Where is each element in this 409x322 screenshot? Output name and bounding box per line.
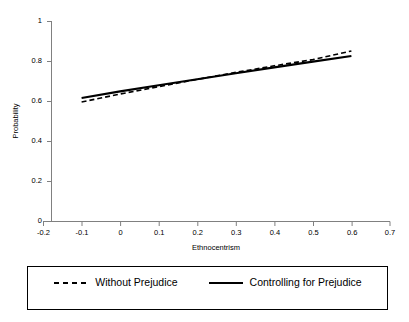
x-axis-ticks (44, 222, 391, 227)
plot-svg (0, 0, 409, 262)
chart-figure: 0 0.2 0.4 0.6 0.8 1 -0.2 -0.1 0 0.1 0.2 … (0, 0, 409, 322)
y-tick-label-1: 1 (24, 17, 42, 25)
plot-area: 0 0.2 0.4 0.6 0.8 1 -0.2 -0.1 0 0.1 0.2 … (0, 0, 409, 262)
legend-label-without-prejudice: Without Prejudice (95, 276, 177, 288)
y-tick-label-0_8: 0.8 (24, 57, 42, 65)
x-tick-label-0_1: 0.1 (154, 229, 164, 237)
x-tick-label-neg0_2: -0.2 (37, 229, 50, 237)
legend-label-controlling-for-prejudice: Controlling for Prejudice (250, 276, 362, 288)
x-tick-label-neg0_1: -0.1 (76, 229, 89, 237)
x-tick-label-0_7: 0.7 (385, 229, 395, 237)
y-tick-label-0_2: 0.2 (24, 177, 42, 185)
x-tick-label-0_3: 0.3 (231, 229, 241, 237)
x-tick-label-0_4: 0.4 (270, 229, 280, 237)
legend-entry-controlling-for-prejudice: Controlling for Prejudice (208, 276, 362, 288)
legend-swatch-dashed-icon (53, 281, 89, 284)
y-axis-ticks (47, 22, 52, 222)
series-line-controlling-for-prejudice (82, 56, 352, 98)
x-tick-label-0: 0 (119, 229, 123, 237)
x-axis-title: Ethnocentrism (192, 243, 240, 252)
y-tick-label-0: 0 (24, 217, 42, 225)
x-tick-label-0_5: 0.5 (308, 229, 318, 237)
y-axis-title: Probability (11, 103, 20, 138)
y-tick-label-0_4: 0.4 (24, 137, 42, 145)
legend-swatch-solid-icon (208, 281, 244, 284)
x-tick-label-0_6: 0.6 (347, 229, 357, 237)
chart-legend: Without Prejudice Controlling for Prejud… (27, 266, 388, 310)
legend-entry-without-prejudice: Without Prejudice (53, 276, 177, 288)
y-tick-label-0_6: 0.6 (24, 97, 42, 105)
x-tick-label-0_2: 0.2 (193, 229, 203, 237)
legend-entries: Without Prejudice Controlling for Prejud… (28, 276, 387, 288)
